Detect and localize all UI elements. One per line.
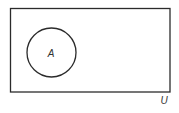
universal-set-label: U xyxy=(160,95,168,106)
set-a-label: A xyxy=(47,48,55,59)
venn-diagram: A U xyxy=(0,0,179,113)
universal-set-rectangle xyxy=(11,9,171,93)
